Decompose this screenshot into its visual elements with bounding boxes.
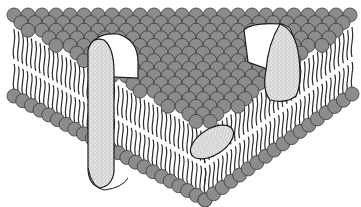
lipid-bilayer-illustration <box>0 0 361 207</box>
membrane-diagram <box>0 0 361 207</box>
